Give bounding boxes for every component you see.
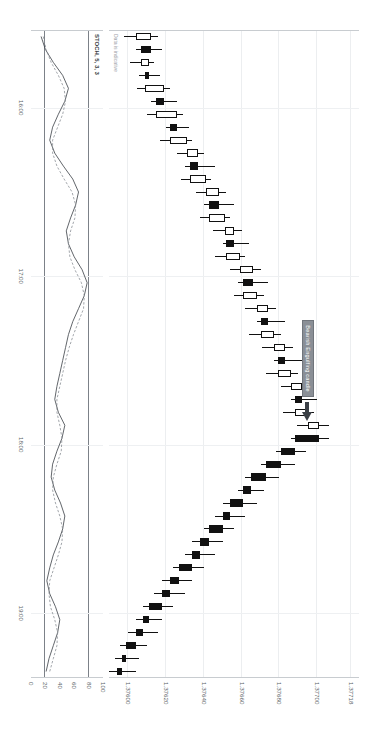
time-tick-label: 16:00 [18, 100, 25, 115]
candle-body-bearish [209, 525, 222, 532]
candle-wick [139, 75, 160, 76]
time-gridline [109, 613, 359, 614]
time-tick-label: 19:00 [18, 605, 25, 620]
candle-body-bearish [209, 201, 218, 208]
price-gridline [241, 30, 242, 678]
price-panel-right-border [109, 677, 359, 678]
price-chart-panel [109, 30, 359, 678]
price-gridline [278, 30, 279, 678]
candle-body-bearish [145, 72, 149, 79]
candle-body-bearish [149, 603, 162, 610]
candle-body-bearish [143, 616, 149, 623]
candle-body-bearish [278, 357, 286, 364]
price-tick-label: 1.37700 [314, 682, 321, 704]
candle-body-bullish [278, 370, 291, 377]
candle-body-bearish [251, 473, 266, 480]
time-tick-label: 17:00 [18, 268, 25, 283]
candle-wick [215, 516, 245, 517]
stoch-tick-label: 40 [56, 682, 63, 689]
candle-body-bearish [243, 279, 252, 286]
candle-body-bearish [190, 162, 198, 169]
stochastic-series [31, 30, 103, 678]
candle-body-bearish [117, 668, 123, 675]
price-panel-left-border [109, 30, 359, 31]
stochastic-title: STOCH, 5, 3, 3 [94, 34, 100, 75]
candle-wick [238, 490, 265, 491]
price-gridline [316, 30, 317, 678]
candle-body-bullish [170, 137, 187, 144]
candle-body-bearish [226, 240, 234, 247]
chart-canvas: 1.377181.377001.376801.376601.376401.376… [0, 0, 377, 737]
candle-body-bearish [295, 435, 320, 442]
bearish-engulfing-annotation: Bearish Engulfing candle [302, 320, 314, 397]
candle-body-bullish [274, 344, 285, 351]
annotation-arrow-icon [302, 412, 312, 421]
candle-body-bearish [261, 318, 269, 325]
stoch-panel-left-border [31, 30, 103, 31]
candle-body-bearish [170, 577, 179, 584]
stoch-tick-label: 80 [85, 682, 92, 689]
data-disclaimer-label: Data is indicative [113, 34, 119, 72]
candle-body-bullish [225, 227, 234, 234]
candle-body-bearish [223, 512, 231, 519]
stoch-tick-label: 60 [71, 682, 78, 689]
candle-body-bullish [145, 85, 164, 92]
time-gridline [109, 276, 359, 277]
candle-wick [136, 619, 163, 620]
candle-body-bearish [122, 655, 126, 662]
candle-body-bearish [136, 629, 144, 636]
candle-wick [109, 671, 136, 672]
candle-body-bullish [206, 188, 219, 195]
candle-body-bearish [200, 538, 209, 545]
candle-body-bullish [291, 383, 302, 390]
candle-body-bullish [257, 305, 268, 312]
price-gridline [203, 30, 204, 678]
stoch-tick-label: 20 [42, 682, 49, 689]
candle-body-bearish [281, 448, 294, 455]
candle-body-bearish [170, 124, 178, 131]
stoch-tick-label: 100 [100, 682, 107, 692]
price-tick-label: 1.37640 [200, 682, 207, 704]
price-tick-label: 1.37680 [276, 682, 283, 704]
price-gridline [350, 30, 351, 678]
candle-body-bearish [126, 642, 135, 649]
time-tick-label: 18:00 [18, 437, 25, 452]
candle-body-bearish [162, 590, 170, 597]
candle-body-bearish [192, 551, 200, 558]
candle-body-bullish [187, 149, 198, 156]
candle-body-bullish [308, 422, 319, 429]
price-tick-label: 1.37718 [348, 682, 355, 704]
candle-wick [128, 632, 158, 633]
candle-body-bearish [141, 46, 150, 53]
candle-wick [154, 593, 184, 594]
stoch-panel-right-border [31, 677, 103, 678]
candle-wick [115, 658, 140, 659]
time-gridline [109, 445, 359, 446]
candle-body-bullish [261, 331, 274, 338]
candle-wick [151, 101, 178, 102]
price-tick-label: 1.37620 [162, 682, 169, 704]
stochastic-panel [31, 30, 103, 678]
price-tick-label: 1.37660 [238, 682, 245, 704]
candle-body-bullish [243, 292, 256, 299]
candle-body-bearish [230, 499, 243, 506]
time-gridline [109, 108, 359, 109]
candle-body-bullish [209, 214, 224, 221]
candle-wick [185, 166, 215, 167]
price-tick-label: 1.37600 [124, 682, 131, 704]
candle-body-bullish [226, 253, 239, 260]
candle-body-bearish [266, 461, 281, 468]
candle-body-bullish [141, 59, 149, 66]
candle-body-bullish [136, 33, 151, 40]
candle-body-bearish [243, 486, 251, 493]
candle-body-bullish [156, 111, 177, 118]
stoch-tick-label: 0 [28, 682, 35, 685]
price-gridline [127, 30, 128, 678]
stoch-k-line [41, 36, 87, 671]
candle-body-bearish [179, 564, 192, 571]
candle-body-bearish [156, 98, 164, 105]
candle-body-bullish [240, 266, 253, 273]
candle-body-bullish [190, 175, 205, 182]
